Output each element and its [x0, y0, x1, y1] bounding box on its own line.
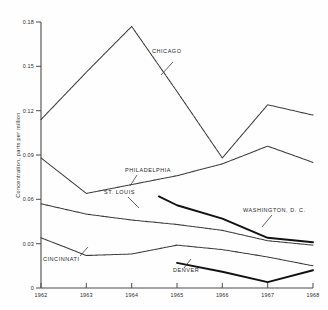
- chart-axes: [41, 22, 313, 288]
- xtick-label-1963: 1963: [80, 292, 93, 298]
- x-axis-ticks: [41, 283, 313, 288]
- annotation-labels: CHICAGO PHILADELPHIA ST. LOUIS WASHINGTO…: [43, 48, 306, 273]
- xtick-label-1968: 1968: [307, 292, 320, 298]
- ytick-label-5: 0.15: [23, 63, 34, 69]
- ytick-label-2: 0.06: [23, 196, 34, 202]
- chart-figure: 0 0.03 0.06 0.09 0.12 0.15 0.18 1962 196…: [0, 0, 328, 310]
- series-label-cincinnati: CINCINNATI: [43, 256, 80, 262]
- xtick-label-1962: 1962: [35, 292, 48, 298]
- ytick-label-0: 0: [31, 285, 34, 291]
- xtick-label-1967: 1967: [261, 292, 274, 298]
- leader-st-louis: [128, 197, 139, 208]
- series-label-washington: WASHINGTON, D. C.: [243, 207, 306, 213]
- series-label-chicago: CHICAGO: [152, 48, 182, 54]
- line-chart-svg: 0 0.03 0.06 0.09 0.12 0.15 0.18 1962 196…: [0, 0, 328, 310]
- leader-washington: [262, 215, 272, 227]
- series-label-denver: DENVER: [173, 267, 199, 273]
- ytick-label-1: 0.03: [23, 241, 34, 247]
- leader-chicago: [161, 62, 173, 75]
- x-axis-tick-labels: 1962 1963 1964 1965 1966 1967 1968: [35, 292, 320, 298]
- series-line-cincinnati: [41, 238, 313, 266]
- series-line-st-louis: [159, 196, 313, 242]
- series-label-philadelphia: PHILADELPHIA: [125, 167, 171, 173]
- series-line-chicago: [41, 26, 313, 158]
- ytick-label-4: 0.12: [23, 108, 34, 114]
- ytick-label-6: 0.18: [23, 19, 34, 25]
- annotation-leaders: [80, 62, 272, 268]
- y-axis-title: Concentration, parts per million: [15, 112, 21, 197]
- y-axis-tick-labels: 0 0.03 0.06 0.09 0.12 0.15 0.18: [23, 19, 34, 291]
- series-line-philadelphia: [41, 146, 313, 193]
- y-axis-ticks: [36, 22, 41, 288]
- series-label-st-louis: ST. LOUIS: [104, 189, 135, 195]
- xtick-label-1966: 1966: [216, 292, 229, 298]
- xtick-label-1964: 1964: [125, 292, 138, 298]
- ytick-label-3: 0.09: [23, 152, 34, 158]
- xtick-label-1965: 1965: [171, 292, 184, 298]
- series-layer: [41, 26, 313, 282]
